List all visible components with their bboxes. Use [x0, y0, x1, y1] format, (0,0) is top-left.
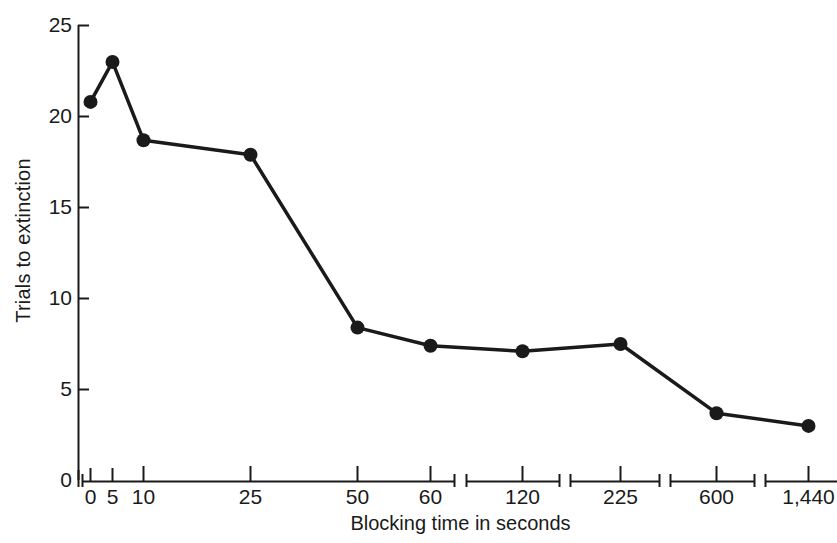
data-point-marker	[614, 337, 628, 351]
x-tick-label: 1,440	[782, 486, 835, 507]
chart-figure: Trials to extinction 25 20 15 10 5 0	[0, 0, 837, 543]
x-tick-label: 120	[505, 486, 540, 507]
data-point-marker	[802, 419, 816, 433]
x-tick-label: 60	[419, 486, 442, 507]
x-tick-label: 600	[699, 486, 734, 507]
x-tick-label: 5	[107, 486, 119, 507]
x-tick-label: 0	[85, 486, 97, 507]
x-axis	[82, 466, 837, 487]
x-tick-label: 225	[603, 486, 638, 507]
x-tick-label: 10	[132, 486, 155, 507]
data-point-marker	[516, 344, 530, 358]
data-point-marker	[84, 95, 98, 109]
plot-area	[0, 0, 837, 543]
data-point-marker	[424, 339, 438, 353]
data-point-marker	[351, 321, 365, 335]
data-point-marker	[244, 148, 258, 162]
x-axis-title-text: Blocking time in seconds	[350, 512, 570, 534]
series-markers	[84, 55, 816, 433]
series-line	[91, 62, 809, 426]
data-point-marker	[106, 55, 120, 69]
data-series	[84, 55, 816, 433]
axes	[78, 25, 89, 487]
x-tick-label: 25	[239, 486, 262, 507]
x-tick-label: 50	[346, 486, 369, 507]
x-axis-title: Blocking time in seconds	[0, 512, 837, 535]
data-point-marker	[710, 406, 724, 420]
data-point-marker	[137, 133, 151, 147]
